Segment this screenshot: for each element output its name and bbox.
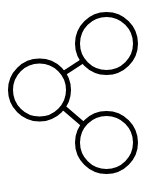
node-layer [11, 15, 136, 172]
left-circle-node[interactable] [11, 61, 69, 119]
top-right-circle-node[interactable] [78, 15, 136, 73]
diagram-canvas: share-network-diagram Three outlined cir… [0, 0, 151, 182]
bottom-right-circle-node[interactable] [78, 114, 136, 172]
lower-connector-line [64, 108, 85, 126]
node-link-diagram: share-network-diagram Three outlined cir… [0, 0, 151, 182]
upper-connector-line [64, 61, 84, 74]
